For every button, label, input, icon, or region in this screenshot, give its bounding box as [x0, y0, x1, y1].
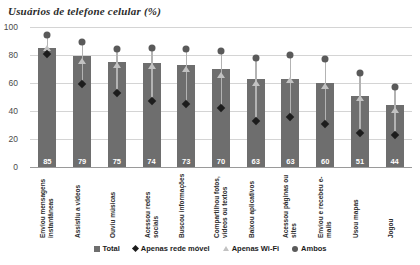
- data-point-ambos[interactable]: [79, 39, 86, 46]
- legend-item-apenas-wifi[interactable]: Apenas Wi-Fi: [223, 244, 279, 253]
- category-label: Enviou mensagens instantâneas: [39, 172, 54, 238]
- bar-value-label: 74: [143, 157, 161, 166]
- data-point-apenas-wifi[interactable]: [217, 72, 225, 78]
- diamond-marker-icon: [132, 245, 139, 252]
- bar-value-label: 63: [247, 157, 265, 166]
- data-point-apenas-wifi[interactable]: [78, 58, 86, 64]
- bar-value-label: 70: [212, 157, 230, 166]
- triangle-marker-icon: [223, 246, 229, 251]
- legend-item-total[interactable]: Total: [94, 244, 120, 253]
- range-whisker: [116, 49, 118, 92]
- bar-value-label: 44: [386, 157, 404, 166]
- data-point-ambos[interactable]: [322, 56, 329, 63]
- y-tick-label-80: 80: [0, 50, 18, 60]
- legend-label: Total: [103, 244, 120, 253]
- category-label: Baixou aplicativos: [248, 172, 256, 238]
- y-tick-label-60: 60: [0, 78, 18, 88]
- legend-label: Ambos: [301, 244, 326, 253]
- category-label: Compartilhou fotos, vídeos ou textos: [213, 172, 228, 238]
- bar-total[interactable]: [38, 48, 56, 167]
- data-point-apenas-wifi[interactable]: [391, 107, 399, 113]
- data-point-apenas-wifi[interactable]: [321, 83, 329, 89]
- data-point-apenas-wifi[interactable]: [148, 63, 156, 69]
- bar-value-label: 79: [73, 157, 91, 166]
- bar-value-label: 73: [177, 157, 195, 166]
- chart-title: Usuários de telefone celular (%): [8, 5, 161, 17]
- category-label: Ouviu músicas: [109, 172, 117, 238]
- circle-marker-icon: [292, 246, 298, 252]
- bar-value-label: 75: [108, 157, 126, 166]
- legend-item-ambos[interactable]: Ambos: [292, 244, 326, 253]
- data-point-ambos[interactable]: [113, 46, 120, 53]
- legend-label: Apenas rede móvel: [141, 244, 210, 253]
- category-label: Enviou e recebeu e-mails: [317, 172, 332, 238]
- bar-value-label: 63: [281, 157, 299, 166]
- range-whisker: [186, 49, 188, 104]
- bar-value-label: 60: [316, 157, 334, 166]
- data-point-apenas-wifi[interactable]: [286, 77, 294, 83]
- category-label: Acessou páginas ou sites: [282, 172, 297, 238]
- chart-root: Usuários de telefone celular (%) 100 80 …: [0, 0, 420, 265]
- category-label: Buscou informações: [178, 172, 186, 238]
- range-whisker: [290, 55, 292, 117]
- legend-label: Apenas Wi-Fi: [232, 244, 279, 253]
- square-marker-icon: [94, 246, 100, 252]
- data-point-ambos[interactable]: [44, 32, 51, 39]
- data-point-ambos[interactable]: [218, 47, 225, 54]
- y-tick-label-100: 100: [0, 22, 18, 32]
- category-label: Usou mapas: [352, 172, 360, 238]
- range-whisker: [325, 59, 327, 123]
- category-label: Acessou redes sociais: [144, 172, 159, 238]
- data-point-ambos[interactable]: [183, 46, 190, 53]
- category-label: Assistiu a vídeos: [74, 172, 82, 238]
- data-point-apenas-wifi[interactable]: [252, 80, 260, 86]
- x-axis-line: [30, 167, 412, 168]
- range-whisker: [359, 73, 361, 133]
- y-tick-label-20: 20: [0, 134, 18, 144]
- data-point-ambos[interactable]: [252, 54, 259, 61]
- data-point-apenas-wifi[interactable]: [356, 95, 364, 101]
- legend-item-apenas-rede-movel[interactable]: Apenas rede móvel: [133, 244, 210, 253]
- bar-value-label: 51: [351, 157, 369, 166]
- data-point-apenas-wifi[interactable]: [113, 62, 121, 68]
- range-whisker: [255, 58, 257, 121]
- y-tick-label-40: 40: [0, 106, 18, 116]
- plot-area: 100 80 60 40 20 0 8579757473706363605144: [30, 27, 412, 167]
- category-label: Jogou: [387, 172, 395, 238]
- y-tick-label-0: 0: [0, 162, 18, 172]
- range-whisker: [221, 51, 223, 108]
- data-point-ambos[interactable]: [287, 52, 294, 59]
- data-point-apenas-wifi[interactable]: [182, 66, 190, 72]
- data-point-ambos[interactable]: [391, 84, 398, 91]
- bar-value-label: 85: [38, 157, 56, 166]
- range-whisker: [151, 48, 153, 101]
- gridline-100: [30, 27, 412, 28]
- chart-legend: Total Apenas rede móvel Apenas Wi-Fi Amb…: [0, 244, 420, 253]
- data-point-ambos[interactable]: [148, 45, 155, 52]
- data-point-ambos[interactable]: [356, 70, 363, 77]
